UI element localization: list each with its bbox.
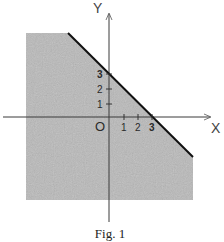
x-tick-label-3: 3 (149, 122, 155, 133)
y-tick-label-2: 2 (97, 84, 103, 95)
figure: X Y 1 2 3 1 2 3 O Fig. 1 (0, 0, 224, 242)
y-tick-label-3: 3 (97, 69, 103, 80)
figure-caption: Fig. 1 (95, 226, 125, 241)
x-tick-label-2: 2 (135, 122, 141, 133)
origin-label: O (95, 119, 105, 134)
x-tick-label-1: 1 (121, 122, 127, 133)
y-axis-label: Y (93, 0, 103, 16)
y-tick-label-1: 1 (97, 99, 103, 110)
x-axis-label: X (211, 120, 221, 136)
